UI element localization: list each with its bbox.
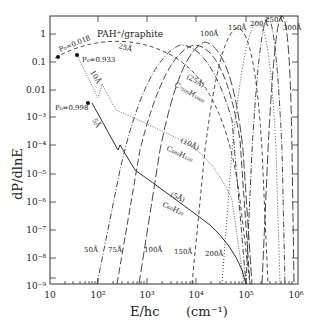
svg-text:0.1: 0.1 <box>32 57 46 67</box>
x-axis-label: E/hc <box>130 304 160 319</box>
y-ticks <box>50 34 298 278</box>
svg-text:10⁻³: 10⁻³ <box>26 112 46 122</box>
svg-text:10⁴: 10⁴ <box>188 290 203 300</box>
svg-text:10: 10 <box>44 290 56 300</box>
x-tick-labels: 10 10² 10³ 10⁴ 10⁵ 10⁶ <box>44 290 304 300</box>
svg-text:5Å: 5Å <box>90 117 103 131</box>
svg-text:50Å: 50Å <box>84 245 99 254</box>
y-axis-label: dP/dlnE <box>10 148 25 200</box>
svg-text:10⁻⁴: 10⁻⁴ <box>26 140 46 150</box>
y-tick-labels: 1 0.1 0.01 10⁻³ 10⁻⁴ 10⁻⁵ 10⁻⁶ 10⁻⁷ 10⁻⁸… <box>26 29 46 291</box>
svg-text:0.01: 0.01 <box>26 85 46 95</box>
chart-title: PAH⁺/graphite <box>97 29 163 39</box>
svg-text:10⁶: 10⁶ <box>288 290 303 300</box>
svg-text:(5Å): (5Å) <box>169 190 187 205</box>
svg-text:100Å: 100Å <box>200 29 219 38</box>
chart: 10 10² 10³ 10⁴ 10⁵ 10⁶ 1 0.1 0.01 10⁻³ 1… <box>0 0 317 331</box>
svg-text:250Å: 250Å <box>265 15 284 24</box>
svg-text:300Å: 300Å <box>283 23 302 32</box>
svg-text:10³: 10³ <box>139 290 154 300</box>
svg-text:100Å: 100Å <box>144 245 163 254</box>
svg-text:P₀=0.018: P₀=0.018 <box>58 34 92 54</box>
svg-text:10⁻⁹: 10⁻⁹ <box>26 281 46 291</box>
svg-text:10⁻⁸: 10⁻⁸ <box>26 253 46 263</box>
svg-text:10⁵: 10⁵ <box>238 290 253 300</box>
svg-text:150Å: 150Å <box>228 23 247 32</box>
svg-text:200Å: 200Å <box>205 249 224 258</box>
svg-text:10⁻⁷: 10⁻⁷ <box>26 225 46 235</box>
svg-text:1: 1 <box>40 29 46 39</box>
svg-text:10⁻⁶: 10⁻⁶ <box>26 197 46 207</box>
svg-text:10⁻⁵: 10⁻⁵ <box>26 169 46 179</box>
svg-text:P₀=0.933: P₀=0.933 <box>82 56 115 64</box>
svg-text:25Å: 25Å <box>117 41 134 54</box>
svg-text:75Å: 75Å <box>108 245 123 254</box>
x-axis-unit: (cm⁻¹) <box>186 304 228 319</box>
svg-text:10Å: 10Å <box>88 69 103 86</box>
svg-text:150Å: 150Å <box>174 247 193 256</box>
svg-text:P₀=0.998: P₀=0.998 <box>55 104 88 112</box>
marker-p2 <box>75 53 79 57</box>
svg-text:(10Å): (10Å) <box>179 136 201 152</box>
svg-text:10²: 10² <box>90 290 105 300</box>
marker-p1 <box>56 55 60 59</box>
